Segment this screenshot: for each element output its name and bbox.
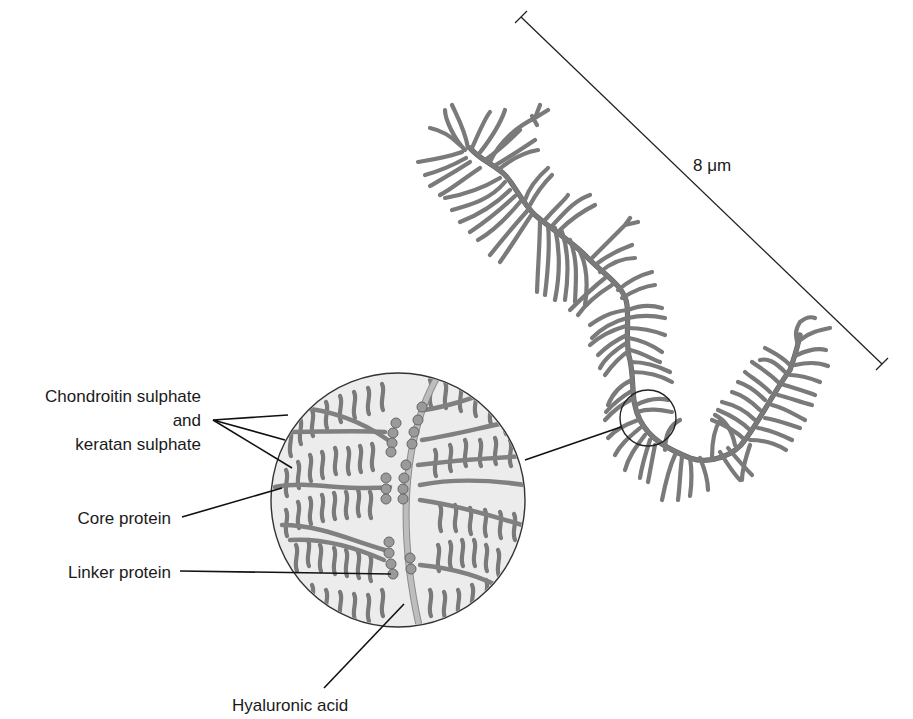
label-chondroitin-keratan: Chondroitin sulphate and keratan sulphat… bbox=[45, 387, 292, 468]
label-core-protein: Core protein bbox=[77, 488, 282, 528]
chondroitin-label-line1: Chondroitin sulphate bbox=[45, 387, 201, 406]
linker-protein-label: Linker protein bbox=[68, 563, 171, 582]
core-protein-label: Core protein bbox=[77, 509, 171, 528]
hyaluronic-acid-label: Hyaluronic acid bbox=[232, 696, 348, 715]
chondroitin-label-line3: keratan sulphate bbox=[75, 435, 201, 454]
chondroitin-label-line2: and bbox=[173, 411, 201, 430]
proteoglycan-diagram: 8 μm bbox=[0, 0, 913, 719]
inset-connector-line bbox=[525, 427, 621, 460]
magnified-inset bbox=[271, 372, 525, 630]
scale-bar bbox=[515, 11, 888, 370]
scale-bar-label: 8 μm bbox=[693, 156, 731, 175]
